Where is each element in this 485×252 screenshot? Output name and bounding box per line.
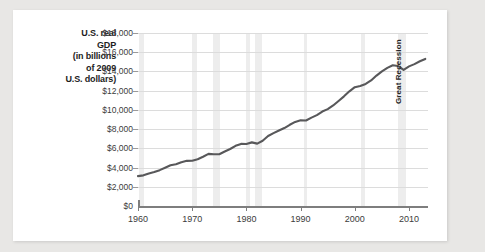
y-axis-tick-mark	[133, 52, 138, 53]
x-axis-tick-mark	[301, 206, 302, 211]
y-axis-tick-label: $14,000	[86, 66, 133, 76]
y-axis-tick-label: $16,000	[86, 47, 133, 57]
y-axis-tick-mark	[133, 110, 138, 111]
x-axis-line	[138, 206, 428, 208]
x-axis-tick-mark	[138, 206, 139, 211]
y-axis-tick-mark	[133, 33, 138, 34]
x-axis-tick-mark	[192, 206, 193, 211]
y-axis-tick-mark	[133, 148, 138, 149]
y-axis-tick-label: $6,000	[86, 143, 133, 153]
x-axis-tick-label: 2000	[345, 214, 365, 224]
y-axis-tick-label: $4,000	[86, 163, 133, 173]
y-axis-tick-mark	[133, 187, 138, 188]
y-axis-tick-label: $10,000	[86, 105, 133, 115]
x-axis-tick-label: 1990	[291, 214, 311, 224]
y-axis-tick-mark	[133, 129, 138, 130]
y-axis-tick-label: $2,000	[86, 182, 133, 192]
chart-plot: Great Recession $0$2,000$4,000$6,000$8,0…	[117, 24, 435, 229]
x-axis-tick-label: 1960	[128, 214, 148, 224]
x-axis-tick-mark	[355, 206, 356, 211]
x-axis-tick-label: 1970	[182, 214, 202, 224]
x-axis-tick-label: 1980	[236, 214, 256, 224]
gdp-line-path	[138, 59, 425, 176]
x-axis-tick-mark	[246, 206, 247, 211]
y-axis-tick-mark	[133, 168, 138, 169]
x-axis-tick-mark	[409, 206, 410, 211]
y-axis-tick-mark	[133, 91, 138, 92]
x-axis-tick-label: 2010	[399, 214, 419, 224]
y-axis-tick-label: $12,000	[86, 86, 133, 96]
y-axis-tick-label: $8,000	[86, 124, 133, 134]
gdp-series-line	[138, 33, 428, 206]
y-axis-tick-mark	[133, 71, 138, 72]
great-recession-annotation: Great Recession	[394, 39, 403, 104]
y-axis-tick-label: $0	[86, 201, 133, 211]
y-axis-tick-label: $18,000	[86, 28, 133, 38]
figure-card: U.S. real GDP (in billions of 2009 U.S. …	[13, 10, 447, 241]
plot-area: Great Recession	[138, 33, 428, 206]
